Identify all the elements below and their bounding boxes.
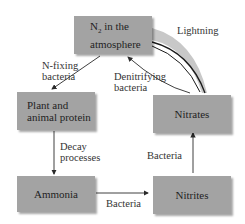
label-lightning: Lightning bbox=[177, 25, 218, 36]
label-decay-2: processes bbox=[60, 152, 100, 163]
label-bacteria-nitrites-nitrates: Bacteria bbox=[147, 150, 182, 161]
label-bacteria-ammonia-nitrites: Bacteria bbox=[106, 198, 141, 209]
label-decay-1: Decay bbox=[60, 141, 87, 152]
node-nitrites: Nitrites bbox=[153, 176, 231, 214]
node-nitrates: Nitrates bbox=[153, 95, 231, 133]
node-ammonia: Ammonia bbox=[17, 176, 95, 212]
node-n2-atmosphere: N2 in the atmosphere bbox=[74, 16, 152, 54]
node-plant-animal-protein: Plant and animal protein bbox=[17, 92, 95, 130]
label-nfixing-2: bacteria bbox=[42, 71, 75, 82]
lightning-bolt-icon bbox=[152, 28, 207, 93]
label-denitrifying-2: bacteria bbox=[114, 82, 147, 93]
label-nfixing-1: N-fixing bbox=[42, 60, 78, 71]
label-denitrifying-1: Denitrifying bbox=[114, 71, 166, 82]
